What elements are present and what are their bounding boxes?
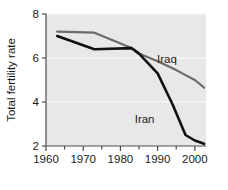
fertility-rate-line-chart: 2468 19601970198019902000 Total fertilit… bbox=[0, 0, 228, 190]
y-tick-labels-group: 2468 bbox=[33, 8, 40, 152]
y-tick-label-2: 2 bbox=[33, 140, 39, 152]
y-tick-label-8: 8 bbox=[33, 8, 39, 20]
x-tick-label-1970: 1970 bbox=[70, 153, 96, 165]
x-tick-labels-group: 19601970198019902000 bbox=[33, 153, 207, 165]
x-tick-label-2000: 2000 bbox=[182, 153, 208, 165]
y-tick-label-6: 6 bbox=[33, 52, 39, 64]
x-tick-label-1980: 1980 bbox=[108, 153, 134, 165]
y-tick-label-4: 4 bbox=[33, 96, 40, 108]
x-tick-label-1990: 1990 bbox=[145, 153, 171, 165]
series-label-iran: Iran bbox=[135, 113, 155, 125]
y-axis-title: Total fertility rate bbox=[5, 38, 17, 122]
x-tick-marks-group bbox=[46, 146, 195, 151]
series-label-iraq: Iraq bbox=[157, 53, 177, 65]
chart-canvas: 2468 19601970198019902000 Total fertilit… bbox=[0, 0, 228, 190]
x-tick-label-1960: 1960 bbox=[33, 153, 59, 165]
